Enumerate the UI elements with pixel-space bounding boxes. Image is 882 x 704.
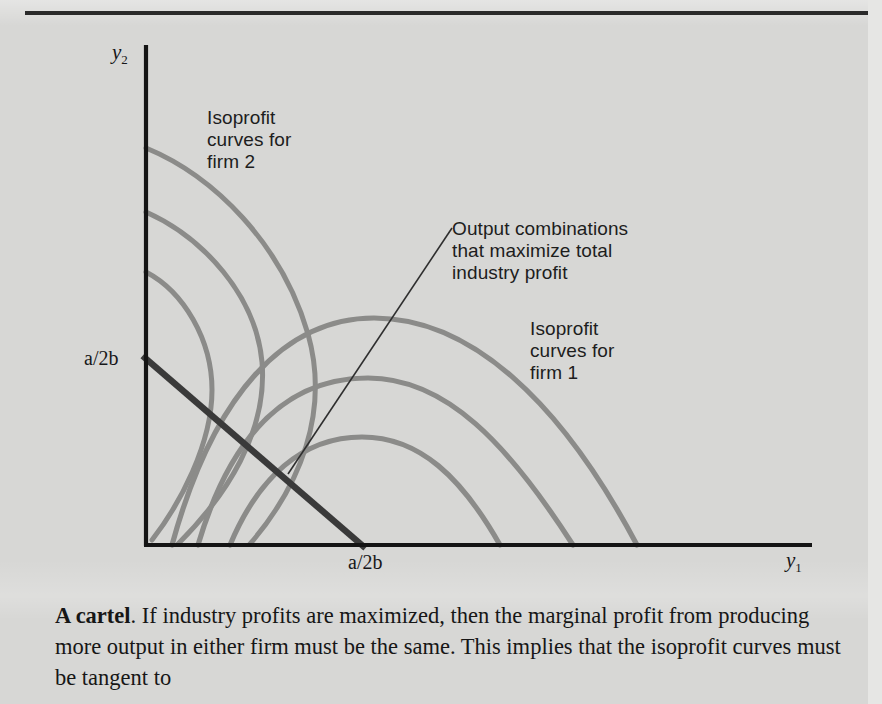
cartel-isoprofit-diagram [0,0,882,704]
y-axis-tick-label-a-over-2b: a/2b [84,347,118,370]
x-axis-tick-label-a-over-2b: a/2b [348,551,382,574]
output-combinations-label: Output combinations that maximize total … [452,218,628,284]
isoprofit-firm2-label: Isoprofit curves for firm 2 [207,107,291,173]
y-axis-label: y2 [112,40,128,68]
isoprofit-firm1-label: Isoprofit curves for firm 1 [530,318,614,384]
caption-body: . If industry profits are maximized, the… [55,603,841,690]
figure-caption: A cartel. If industry profits are maximi… [55,600,855,693]
caption-lead: A cartel [55,603,131,628]
isoprofit-curve-firm1-middle [198,378,573,545]
isoprofit-curve-firm1-inner [230,437,500,545]
x-axis-label: y1 [786,548,802,576]
figure-page: y2 y1 a/2b a/2b Isoprofit curves for fir… [0,0,882,704]
